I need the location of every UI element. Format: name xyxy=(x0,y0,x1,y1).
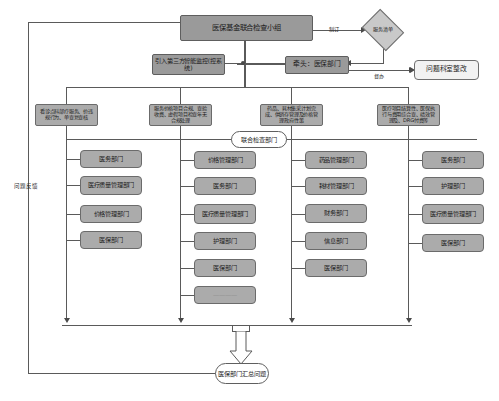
dept-c1-r1[interactable]: 医务部门 xyxy=(80,150,142,168)
flowchart-canvas: 医保基金联合检查小组 制订 服务清单 引入第三方智能监控(控系统) 牵头：医保部… xyxy=(0,0,499,401)
dept-c4-r2[interactable]: 护理部门 xyxy=(422,177,484,195)
center-rail-left xyxy=(66,139,236,140)
arrowhead-col3 xyxy=(289,318,295,323)
dept-c4-r1[interactable]: 医务部门 xyxy=(422,151,484,169)
bus-drop-2 xyxy=(180,87,181,105)
column-spine-3 xyxy=(291,139,292,319)
dept-c1-r3[interactable]: 价格管理部门 xyxy=(80,205,142,223)
column-spine-4 xyxy=(408,139,409,319)
dept-c2-r2[interactable]: 医务部门 xyxy=(194,177,256,195)
stub-c3-r5 xyxy=(291,268,305,269)
column-spine-1 xyxy=(66,139,67,319)
dept-c2-r4[interactable]: 护理部门 xyxy=(194,232,256,250)
stub-c2-r1 xyxy=(180,160,194,161)
scope-box-1[interactable]: 看诊点科部疗服务、价违规行为、单查复查核 xyxy=(35,104,98,126)
junction-dot-row2 xyxy=(241,61,245,65)
node-service-list-diamond[interactable]: 服务清单 xyxy=(366,17,400,43)
arrowhead-col2 xyxy=(178,318,184,323)
stub-c3-r3 xyxy=(291,214,305,215)
connector-root-down-2 xyxy=(245,41,246,63)
dept-c3-r5[interactable]: 医保部门 xyxy=(305,259,367,277)
stub-c4-r3 xyxy=(408,214,422,215)
node-root[interactable]: 医保基金联合检查小组 xyxy=(180,15,313,41)
stub-c1-r3 xyxy=(66,214,80,215)
scope-drop-1 xyxy=(66,126,67,140)
bus-drop-4 xyxy=(408,87,409,105)
dept-c2-r5[interactable]: 医保部门 xyxy=(194,259,256,277)
node-summary[interactable]: 医保部门汇总问题 xyxy=(215,363,269,384)
bus-drop-1 xyxy=(66,87,67,105)
scope-drop-4 xyxy=(408,126,409,140)
dept-c4-r3[interactable]: 医疗质量管理部门 xyxy=(422,204,484,224)
edge-label-zhiding: 制订 xyxy=(329,25,339,32)
collection-bus xyxy=(62,325,412,326)
dept-c3-r1[interactable]: 药品管理部门 xyxy=(305,151,367,169)
stub-c4-r4 xyxy=(408,243,422,244)
stub-c2-r3 xyxy=(180,214,194,215)
dept-c3-r4[interactable]: 信息部门 xyxy=(305,232,367,250)
scope-box-3[interactable]: 药品、耗材集采计划完成、供销存管理及价格管理政府性策 xyxy=(260,104,323,126)
scope-box-4[interactable]: 医疗项目结算性、医保执行与费用综合查、绩效管理及、DRG付费等 xyxy=(377,104,440,126)
arrowhead-col4 xyxy=(406,318,412,323)
dept-c3-r2[interactable]: 耗材管理部门 xyxy=(305,177,367,195)
stub-c2-r4 xyxy=(180,241,194,242)
feedback-top xyxy=(28,22,185,23)
connector-junction-down-2 xyxy=(245,64,246,87)
node-rectify-department[interactable]: 问题科室整改 xyxy=(414,60,479,80)
scope-box-2[interactable]: 服务价格项目合规、查验收费、虚假项目检查年无合规处理 xyxy=(149,104,212,126)
stub-c4-r2 xyxy=(408,186,422,187)
center-label-joint-inspection[interactable]: 联合检查部门 xyxy=(231,131,287,148)
dept-c3-r3[interactable]: 财务部门 xyxy=(305,204,367,223)
column-spine-2 xyxy=(180,139,181,319)
dept-c2-r6[interactable]: ———— xyxy=(194,286,256,304)
dept-c2-r1[interactable]: 价格管理部门 xyxy=(194,151,256,169)
center-rail-right xyxy=(283,139,477,140)
stub-c2-r6 xyxy=(180,295,194,296)
stub-c2-r2 xyxy=(180,186,194,187)
diamond-label: 服务清单 xyxy=(366,17,400,43)
edge-label-duban: 督办 xyxy=(374,72,384,79)
node-third-party-monitoring[interactable]: 引入第三方智能监控(控系统) xyxy=(152,54,225,75)
stub-c3-r2 xyxy=(291,186,305,187)
edge-label-feedback: 问题反馈 xyxy=(14,182,38,190)
summary-flow-arrow-icon xyxy=(228,331,254,365)
stub-c4-r1 xyxy=(408,160,422,161)
dept-c1-r4[interactable]: 医保部门 xyxy=(80,231,142,249)
feedback-bottom xyxy=(28,373,240,374)
dept-c2-r3[interactable]: 医疗质量管理部门 xyxy=(194,204,256,224)
dept-c4-r4[interactable]: 医保部门 xyxy=(422,234,484,252)
connector-lead-left xyxy=(245,63,285,64)
bus-drop-3 xyxy=(291,87,292,105)
node-lead-department[interactable]: 牵头：医保部门 xyxy=(285,56,349,74)
arrowhead-col1 xyxy=(64,318,70,323)
stub-c2-r5 xyxy=(180,268,194,269)
stub-c1-r4 xyxy=(66,240,80,241)
dept-c1-r2[interactable]: 医疗质量管理部门 xyxy=(80,176,142,195)
stub-c3-r4 xyxy=(291,241,305,242)
stub-c1-r1 xyxy=(66,159,80,160)
connector-lead-rectify xyxy=(349,70,412,71)
stub-c1-r2 xyxy=(66,185,80,186)
connector-diamond-lead xyxy=(349,63,384,64)
distribution-bus xyxy=(66,87,409,88)
stub-c3-r1 xyxy=(291,160,305,161)
feedback-left-vertical xyxy=(28,22,29,374)
scope-drop-2 xyxy=(180,126,181,140)
scope-drop-3 xyxy=(291,126,292,140)
